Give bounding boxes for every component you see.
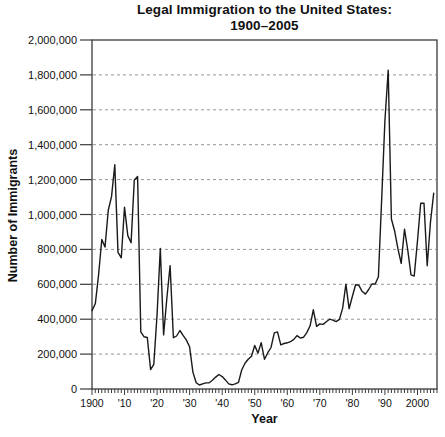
y-tick-label: 0 xyxy=(71,383,77,395)
x-tick-label: '30 xyxy=(183,397,197,409)
y-tick-label: 600,000 xyxy=(37,278,77,290)
line-chart-plot-area: 2,000,0001,800,0001,600,0001,400,0001,20… xyxy=(0,0,445,437)
x-tick-label: '50 xyxy=(248,397,262,409)
y-tick-label: 1,400,000 xyxy=(28,139,77,151)
x-tick-label: '90 xyxy=(378,397,392,409)
x-axis-title: Year xyxy=(92,412,437,426)
y-tick-label: 200,000 xyxy=(37,348,77,360)
x-tick-label: '80 xyxy=(346,397,360,409)
y-tick-label: 2,000,000 xyxy=(28,34,77,46)
y-tick-label: 1,000,000 xyxy=(28,209,77,221)
x-tick-label: '10 xyxy=(118,397,132,409)
y-tick-label: 1,200,000 xyxy=(28,174,77,186)
x-tick-label: '60 xyxy=(280,397,294,409)
x-tick-label: 1900 xyxy=(80,397,104,409)
y-tick-label: 1,600,000 xyxy=(28,104,77,116)
x-tick-label: '20 xyxy=(150,397,164,409)
x-tick-label: 2000 xyxy=(406,397,430,409)
y-tick-label: 1,800,000 xyxy=(28,69,77,81)
x-tick-label: '70 xyxy=(313,397,327,409)
immigration-line xyxy=(92,70,434,385)
y-tick-label: 800,000 xyxy=(37,243,77,255)
x-tick-label: '40 xyxy=(215,397,229,409)
chart-figure: Legal Immigration to the United States: … xyxy=(0,0,445,437)
y-tick-label: 400,000 xyxy=(37,313,77,325)
